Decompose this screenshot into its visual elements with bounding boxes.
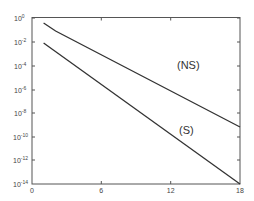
y-ticks xyxy=(32,18,240,160)
x-tick-labels: 0 6 12 18 xyxy=(30,187,244,194)
svg-text:10-6: 10-6 xyxy=(14,85,26,94)
svg-text:10-4: 10-4 xyxy=(14,61,26,70)
series-ns-label: (NS) xyxy=(177,59,200,71)
y-tick-labels: 100 10-2 10-4 10-6 10-8 10-10 10-12 10-1… xyxy=(13,13,28,188)
line-chart: 100 10-2 10-4 10-6 10-8 10-10 10-12 10-1… xyxy=(0,0,254,201)
series-s-label: (S) xyxy=(179,124,194,136)
series-s-line xyxy=(44,43,240,184)
plot-area xyxy=(32,18,240,185)
svg-text:6: 6 xyxy=(99,187,103,194)
svg-text:10-12: 10-12 xyxy=(13,155,28,164)
svg-text:0: 0 xyxy=(30,187,34,194)
svg-text:10-14: 10-14 xyxy=(13,179,28,188)
svg-text:12: 12 xyxy=(167,187,175,194)
svg-text:10-10: 10-10 xyxy=(13,132,28,141)
svg-text:10-2: 10-2 xyxy=(14,37,26,46)
svg-text:100: 100 xyxy=(14,13,25,22)
svg-text:18: 18 xyxy=(236,187,244,194)
svg-text:10-8: 10-8 xyxy=(14,108,26,117)
x-ticks xyxy=(101,18,170,185)
series-ns-line xyxy=(44,23,240,127)
